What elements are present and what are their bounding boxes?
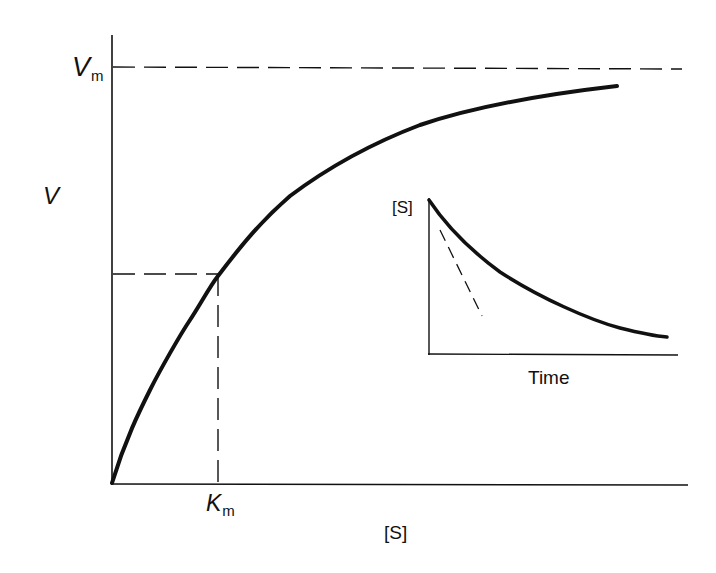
vm-label-sub: m — [91, 67, 104, 84]
inset-tangent-line — [440, 230, 482, 316]
km-label-main: K — [206, 490, 221, 516]
saturation-curve — [112, 86, 617, 483]
inset-depletion-curve — [429, 200, 667, 337]
inset-x-label: Time — [528, 367, 570, 389]
km-label-sub: m — [222, 502, 235, 519]
inset-x-axis — [428, 354, 678, 355]
vm-asymptote-line — [113, 67, 682, 69]
inset-y-label: [S] — [392, 198, 413, 218]
michaelis-menten-diagram — [0, 0, 716, 573]
km-label: Km — [206, 490, 235, 517]
vm-label-main: V — [72, 52, 90, 82]
y-axis-label: V — [43, 182, 59, 210]
x-axis — [111, 484, 688, 485]
x-axis-label: [S] — [384, 522, 407, 544]
vm-label: Vm — [72, 52, 104, 83]
